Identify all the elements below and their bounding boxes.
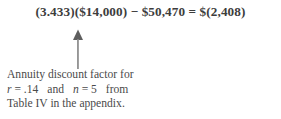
- caption-line-1: Annuity discount factor for: [7, 68, 134, 83]
- rate-value: = .14: [14, 83, 38, 96]
- caption-line-3: Table IV in the appendix.: [7, 97, 134, 112]
- up-arrow-glyph: [70, 29, 86, 69]
- annotation-caption: Annuity discount factor for r = .14 and …: [7, 68, 134, 112]
- rate-variable: r: [7, 83, 12, 96]
- caption-line-2: r = .14 and n = 5 from: [7, 83, 134, 98]
- equation-line: (3.433)($14,000) − $50,470 = $(2,408): [0, 4, 281, 20]
- periods-variable: n: [73, 83, 79, 96]
- up-arrow-icon: [70, 29, 86, 69]
- periods-value: = 5: [82, 83, 97, 96]
- conjunction-label: and: [47, 83, 64, 96]
- caption-line-2-tail: from: [106, 83, 129, 96]
- figure-container: (3.433)($14,000) − $50,470 = $(2,408) An…: [0, 0, 281, 119]
